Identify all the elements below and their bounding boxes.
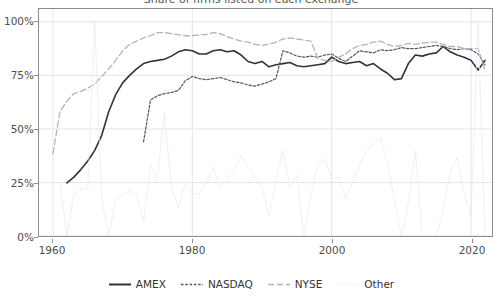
solid-line-swatch <box>108 279 132 290</box>
dashed-line-swatch <box>180 279 204 290</box>
legend-label: NASDAQ <box>208 278 253 290</box>
legend-entry-nasdaq[interactable]: NASDAQ <box>180 278 253 290</box>
y-tick-label: 100% <box>4 15 34 27</box>
x-axis: 1960198020002020 <box>38 239 493 259</box>
legend-label: Other <box>364 278 394 290</box>
chart-legend: AMEXNASDAQNYSEOther <box>0 278 502 290</box>
y-tick-label: 50% <box>4 123 34 135</box>
series-line-nasdaq <box>144 45 485 141</box>
series-line-other <box>60 22 485 236</box>
y-tick-label: 75% <box>4 69 34 81</box>
dotted-line-swatch <box>336 279 360 290</box>
x-tick-label: 2000 <box>319 244 346 256</box>
chart-figure: Share of firms listed on each exchange 0… <box>0 0 502 300</box>
x-tick-mark <box>472 239 473 243</box>
longdash-line-swatch <box>267 279 291 290</box>
x-tick-mark <box>332 239 333 243</box>
x-tick-label: 1960 <box>39 244 66 256</box>
plot-area <box>38 8 493 237</box>
legend-entry-nyse[interactable]: NYSE <box>267 278 323 290</box>
x-tick-mark <box>192 239 193 243</box>
legend-entry-other[interactable]: Other <box>336 278 394 290</box>
x-tick-label: 2020 <box>459 244 486 256</box>
y-tick-mark <box>34 237 38 238</box>
legend-label: AMEX <box>136 278 166 290</box>
y-tick-label: 25% <box>4 177 34 189</box>
y-axis: 0%25%50%75%100% <box>0 8 34 237</box>
legend-label: NYSE <box>295 278 323 290</box>
y-tick-label: 0% <box>4 231 34 243</box>
data-series-layer <box>39 9 492 236</box>
chart-title: Share of firms listed on each exchange <box>0 0 502 6</box>
series-line-amex <box>67 46 485 182</box>
legend-entry-amex[interactable]: AMEX <box>108 278 166 290</box>
series-line-nyse <box>53 33 485 154</box>
x-tick-label: 1980 <box>179 244 206 256</box>
x-tick-mark <box>52 239 53 243</box>
